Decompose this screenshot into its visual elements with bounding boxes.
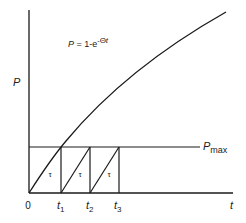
origin-label: 0 [25, 200, 31, 211]
formula-label: P = 1-e-Θt [68, 36, 109, 49]
tau-label-2: τ [78, 170, 82, 179]
pmax-label: Pmax [203, 140, 228, 155]
diagram-canvas: τ τ τ P t 0 t1 t2 t3 Pmax P = 1-e-Θt [0, 0, 246, 223]
ramp-2 [61, 147, 90, 193]
tick-t2: t2 [86, 199, 94, 214]
y-axis-label: P [13, 76, 21, 88]
tau-label-1: τ [48, 170, 52, 179]
tau-label-3: τ [107, 170, 111, 179]
exponential-curve [29, 12, 226, 193]
tick-t3: t3 [114, 199, 122, 214]
x-axis-label: t [230, 199, 234, 211]
tick-t1: t1 [57, 199, 65, 214]
ramp-3 [90, 147, 119, 193]
